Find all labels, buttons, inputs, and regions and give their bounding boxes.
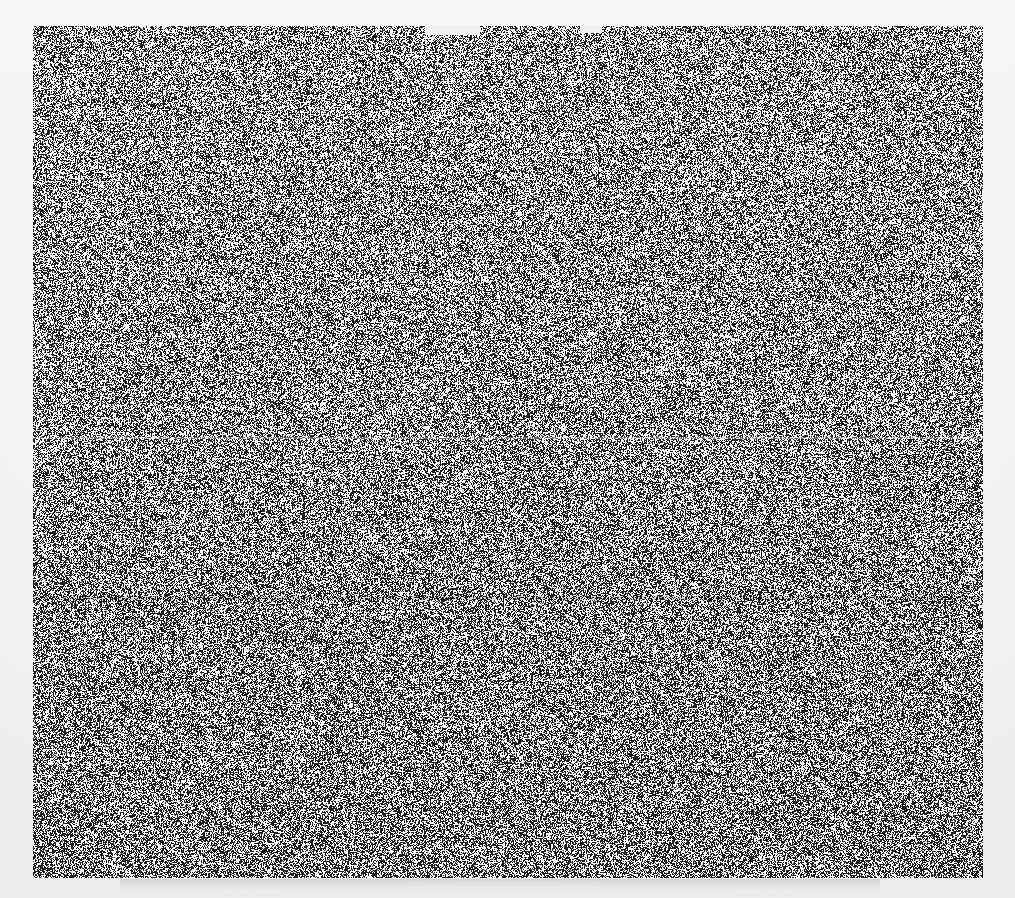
top-notch-right bbox=[580, 26, 602, 33]
scanned-page bbox=[0, 0, 1015, 898]
top-notch-left bbox=[425, 26, 480, 35]
scan-artifact-wash bbox=[120, 879, 880, 893]
dithered-noise-region bbox=[33, 26, 983, 878]
noise-canvas bbox=[33, 26, 983, 878]
